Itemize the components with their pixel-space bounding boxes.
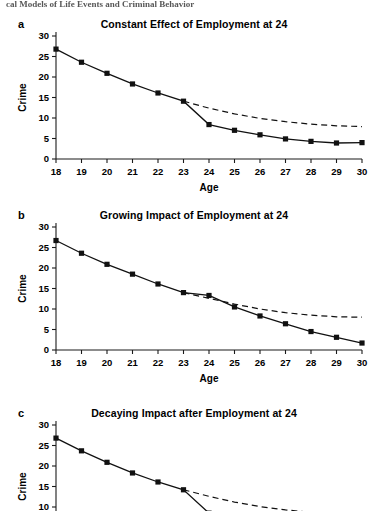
x-axis-title: Age [200,373,219,384]
data-point-marker [53,47,58,52]
x-tick-label: 28 [306,357,317,368]
data-point-marker [130,470,135,475]
data-point-marker [359,340,364,345]
y-tick-label: 30 [38,419,49,430]
x-tick-label: 26 [255,357,266,368]
data-point-marker [130,272,135,277]
data-point-marker [334,140,339,145]
data-point-marker [104,71,109,76]
data-point-marker [206,293,211,298]
x-tick-label: 27 [280,166,291,177]
x-tick-label: 26 [255,166,266,177]
data-point-marker [104,262,109,267]
y-tick-label: 10 [38,112,49,123]
figure-panel-a: a Constant Effect of Employment at 24 05… [0,14,372,210]
x-tick-label: 20 [102,166,113,177]
data-point-marker [104,460,109,465]
y-tick-label: 10 [38,303,49,314]
data-point-marker [79,448,84,453]
observed-series-line [56,241,362,344]
data-point-marker [232,304,237,309]
data-point-marker [79,60,84,65]
y-tick-label: 0 [44,344,49,355]
x-tick-label: 24 [204,166,215,177]
x-tick-label: 27 [280,357,291,368]
data-point-marker [232,128,237,133]
data-point-marker [283,136,288,141]
x-tick-label: 20 [102,357,113,368]
data-point-marker [257,132,262,137]
y-tick-label: 5 [44,324,50,335]
x-tick-label: 19 [76,357,87,368]
x-tick-label: 22 [153,166,164,177]
data-point-marker [334,335,339,340]
data-point-marker [53,436,58,441]
y-tick-label: 15 [38,283,49,294]
observed-series-line [56,49,362,143]
counterfactual-series-line [184,490,363,511]
x-tick-label: 21 [127,166,138,177]
y-tick-label: 20 [38,460,49,471]
observed-series-line [56,438,362,511]
x-tick-label: 22 [153,357,164,368]
y-tick-label: 0 [44,153,49,164]
y-tick-label: 25 [38,51,49,62]
data-point-marker [53,238,58,243]
plot-area-c: 05101520253018192021222324252627282930Cr… [0,403,372,511]
data-point-marker [283,321,288,326]
x-tick-label: 24 [204,357,215,368]
y-axis-title: Crime [17,83,28,112]
y-tick-label: 30 [38,221,49,232]
y-tick-label: 15 [38,92,49,103]
data-point-marker [130,81,135,86]
data-point-marker [155,479,160,484]
x-tick-label: 28 [306,166,317,177]
x-tick-label: 25 [229,166,240,177]
line-chart-c: 05101520253018192021222324252627282930Cr… [0,403,372,511]
y-tick-label: 15 [38,481,49,492]
y-tick-label: 20 [38,71,49,82]
y-axis-title: Crime [17,274,28,303]
plot-area-b: 05101520253018192021222324252627282930Cr… [0,205,372,401]
y-tick-label: 30 [38,30,49,41]
line-chart-a: 05101520253018192021222324252627282930Cr… [0,14,372,210]
data-point-marker [359,140,364,145]
x-tick-label: 29 [331,357,342,368]
x-tick-label: 23 [178,166,189,177]
x-tick-label: 23 [178,357,189,368]
x-tick-label: 30 [357,357,368,368]
figure-panel-c: c Decaying Impact after Employment at 24… [0,403,372,511]
data-point-marker [155,281,160,286]
y-tick-label: 25 [38,242,49,253]
x-tick-label: 25 [229,357,240,368]
x-axis-title: Age [200,182,219,193]
data-point-marker [308,139,313,144]
data-point-marker [79,251,84,256]
running-head: cal Models of Life Events and Criminal B… [6,0,366,8]
x-tick-label: 21 [127,357,138,368]
y-tick-label: 5 [44,133,50,144]
plot-area-a: 05101520253018192021222324252627282930Cr… [0,14,372,210]
x-tick-label: 29 [331,166,342,177]
x-tick-label: 30 [357,166,368,177]
data-point-marker [206,122,211,127]
figure-panel-b: b Growing Impact of Employment at 24 051… [0,205,372,401]
y-axis-title: Crime [17,472,28,501]
y-tick-label: 10 [38,501,49,511]
data-point-marker [257,313,262,318]
data-point-marker [308,329,313,334]
y-tick-label: 25 [38,440,49,451]
x-tick-label: 19 [76,166,87,177]
data-point-marker [155,90,160,95]
y-tick-label: 20 [38,262,49,273]
x-tick-label: 18 [51,357,62,368]
x-tick-label: 18 [51,166,62,177]
line-chart-b: 05101520253018192021222324252627282930Cr… [0,205,372,401]
